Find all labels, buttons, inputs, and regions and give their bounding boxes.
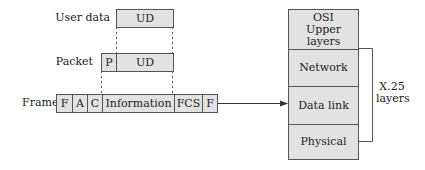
frame-to-datalink-arrow xyxy=(217,101,288,107)
packet-ud-cell: UD xyxy=(117,54,173,71)
network-text: Network xyxy=(299,62,348,74)
frame-flag-start-cell: F xyxy=(57,95,73,112)
x25-bracket xyxy=(358,49,373,142)
user-data-box: UD xyxy=(116,9,174,28)
frame-information-cell: Information xyxy=(103,95,175,112)
osi-network-layer: Network xyxy=(289,50,358,87)
frame-fcs-cell: FCS xyxy=(175,95,203,112)
frame-box: F A C Information FCS F xyxy=(56,94,218,113)
c-text: C xyxy=(91,98,99,110)
physical-text: Physical xyxy=(300,136,346,148)
x25-layers-label: X.25 layers xyxy=(376,81,408,105)
osi-stack: OSI Upper layers Network Data link Physi… xyxy=(288,9,359,160)
data-link-text: Data link xyxy=(298,100,349,112)
ud-text: UD xyxy=(136,57,154,69)
f-end-text: F xyxy=(206,98,214,110)
ud-cell: UD xyxy=(136,13,154,25)
packet-box: P UD xyxy=(101,53,174,72)
upper-layers-text: Upper layers xyxy=(289,24,358,48)
osi-text: OSI xyxy=(313,12,334,24)
p-text: P xyxy=(105,57,112,69)
osi-datalink-layer: Data link xyxy=(289,87,358,125)
information-text: Information xyxy=(105,98,171,110)
layers-text: layers xyxy=(376,93,408,105)
fcs-text: FCS xyxy=(177,98,201,110)
frame-control-cell: C xyxy=(88,95,103,112)
connector-lines xyxy=(0,0,425,170)
frame-flag-end-cell: F xyxy=(203,95,217,112)
frame-address-cell: A xyxy=(73,95,88,112)
frame-label: Frame xyxy=(22,97,58,109)
osi-upper-layers: OSI Upper layers xyxy=(289,10,358,50)
packet-label: Packet xyxy=(56,56,93,68)
user-data-label: User data xyxy=(55,12,110,24)
packet-header-cell: P xyxy=(102,54,117,71)
osi-physical-layer: Physical xyxy=(289,125,358,159)
a-text: A xyxy=(76,98,84,110)
f-text: F xyxy=(61,98,69,110)
